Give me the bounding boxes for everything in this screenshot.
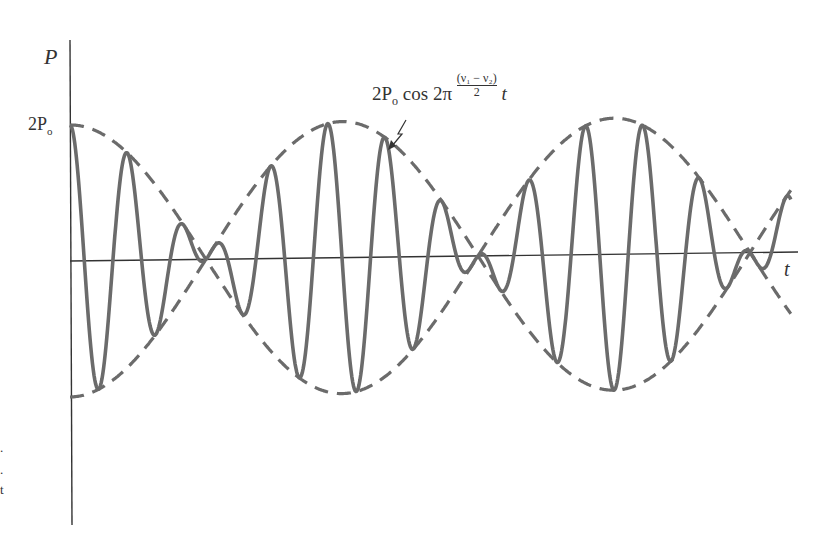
formula-t: t (501, 83, 506, 104)
envelope-formula: 2Po cos 2π (ν₁ − ν₂)2 t (372, 82, 507, 109)
edge-fragment-2: . (0, 462, 3, 478)
fraction-denominator: 2 (457, 86, 497, 99)
formula-fraction: (ν₁ − ν₂)2 (457, 72, 497, 99)
y-tick-2po: 2Po (28, 114, 53, 137)
formula-mid: cos 2π (398, 83, 452, 104)
y-axis-label: P (44, 44, 57, 70)
tick-text: 2P (28, 114, 47, 134)
x-axis (70, 252, 798, 261)
y-axis (70, 40, 72, 525)
formula-prefix: 2P (372, 83, 392, 104)
fraction-numerator: (ν₁ − ν₂) (457, 72, 497, 86)
edge-fragment-1: . (0, 440, 3, 456)
beat-waveform (70, 124, 791, 392)
x-axis-label: t (784, 258, 790, 281)
tick-sub: o (47, 125, 53, 137)
edge-fragment-3: t (0, 482, 4, 498)
